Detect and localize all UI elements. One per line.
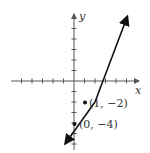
y-axis-label: y bbox=[78, 10, 86, 23]
point-1-neg2 bbox=[83, 101, 87, 105]
plotted-line bbox=[95, 16, 128, 102]
point-label-1-neg2: (1, −2) bbox=[89, 97, 128, 110]
point-label-0-neg4: (0, −4) bbox=[79, 118, 118, 131]
coordinate-plane: x y (1, −2) bbox=[0, 0, 150, 153]
graph: x y (1, −2) bbox=[0, 0, 150, 153]
x-axis: x bbox=[11, 79, 142, 98]
x-axis-label: x bbox=[135, 84, 142, 97]
point-0-neg4 bbox=[73, 122, 77, 126]
